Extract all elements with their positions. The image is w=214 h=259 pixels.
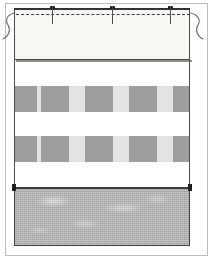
pin-shaft-icon xyxy=(52,6,53,24)
left-edge-stem xyxy=(14,60,15,64)
right-break-squiggle-icon xyxy=(190,12,204,42)
lower-solid-panel xyxy=(14,188,190,246)
hem-panel-bottom-shadow xyxy=(16,60,192,62)
seam-marker-right xyxy=(188,184,192,191)
check-square xyxy=(41,86,69,112)
right-edge-stem xyxy=(189,60,190,64)
gingham-fabric-panel xyxy=(14,63,190,188)
lower-panel-top-edge-line xyxy=(14,187,190,189)
pin-shaft-icon xyxy=(112,6,113,24)
check-square xyxy=(41,136,69,162)
check-square xyxy=(85,86,113,112)
hem-panel xyxy=(14,8,190,60)
check-band-lower xyxy=(15,136,189,162)
check-square xyxy=(173,86,190,112)
check-square xyxy=(85,136,113,162)
hem-top-edge-line xyxy=(14,8,190,10)
check-square xyxy=(14,86,37,112)
left-break-squiggle-icon xyxy=(2,12,16,42)
lower-panel-mottle xyxy=(15,189,189,245)
dashed-stitch-line xyxy=(16,14,190,15)
lower-panel-texture xyxy=(15,189,189,245)
seam-marker-left xyxy=(12,184,16,191)
check-band-upper xyxy=(15,86,189,112)
check-square xyxy=(14,136,37,162)
check-square xyxy=(173,136,190,162)
check-square xyxy=(129,136,157,162)
check-square xyxy=(129,86,157,112)
sewing-diagram-figure xyxy=(0,0,214,259)
pin-shaft-icon xyxy=(170,6,171,24)
